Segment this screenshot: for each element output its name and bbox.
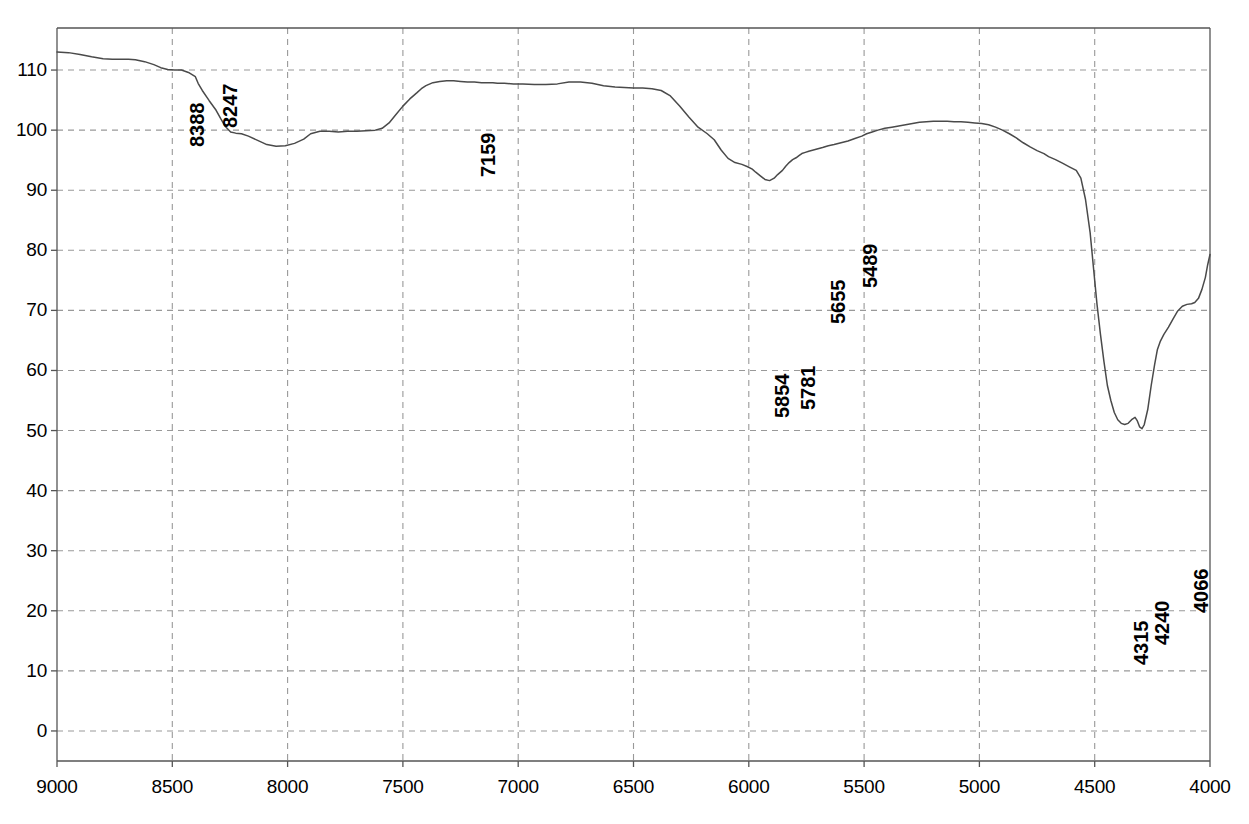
x-tick-label: 4500 — [1074, 776, 1115, 798]
y-tick-label: 110 — [17, 59, 47, 81]
peak-label: 4240 — [1151, 601, 1174, 646]
peak-label: 5655 — [827, 280, 850, 325]
x-tick-label: 9000 — [36, 776, 77, 798]
x-tick-label: 6000 — [728, 776, 769, 798]
x-tick-label: 7500 — [382, 776, 423, 798]
x-tick-label: 8000 — [267, 776, 308, 798]
x-tick-label: 6500 — [613, 776, 654, 798]
peak-label: 7159 — [477, 133, 500, 178]
peak-label: 4315 — [1130, 621, 1153, 666]
y-tick-label: 50 — [26, 420, 47, 442]
spectrum-chart: 0102030405060708090100110 90008500800075… — [0, 0, 1249, 824]
y-tick-label: 20 — [26, 600, 47, 622]
y-tick-label: 40 — [26, 480, 47, 502]
y-tick-label: 80 — [26, 239, 47, 261]
y-tick-label: 100 — [16, 119, 47, 141]
grid-lines — [57, 28, 1210, 761]
x-tick-label: 5000 — [959, 776, 1000, 798]
peak-label: 4066 — [1190, 569, 1213, 614]
peak-label: 5781 — [797, 366, 820, 411]
x-tick-label: 4000 — [1189, 776, 1230, 798]
x-tick-label: 7000 — [497, 776, 538, 798]
peak-label: 8247 — [219, 84, 242, 129]
peak-label: 5489 — [859, 244, 882, 289]
y-tick-label: 60 — [26, 359, 47, 381]
peak-label: 5854 — [771, 374, 794, 419]
x-tick-label: 5500 — [843, 776, 884, 798]
x-tick-label: 8500 — [152, 776, 193, 798]
y-tick-label: 0 — [37, 720, 47, 742]
axis-ticks — [51, 70, 1210, 767]
peak-label: 8388 — [186, 103, 209, 148]
y-tick-label: 10 — [26, 660, 47, 682]
y-tick-label: 90 — [26, 179, 47, 201]
y-tick-label: 70 — [26, 299, 47, 321]
y-tick-label: 30 — [26, 540, 47, 562]
